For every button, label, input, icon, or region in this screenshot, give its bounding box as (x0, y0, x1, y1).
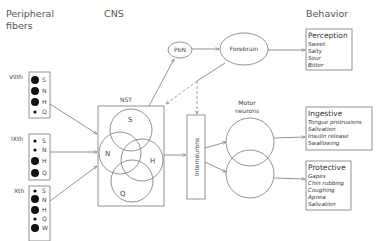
svg-text:S: S (128, 116, 133, 124)
nerve-xth: Xth S N H Q W (14, 186, 50, 241)
behavior-protective: Protective Gapes Chin rubbing Coughing A… (306, 161, 351, 210)
receptor-dot (31, 157, 39, 165)
nerve-viith: VIIth S N H Q (9, 72, 50, 118)
pbn-label: PbN (174, 46, 186, 53)
svg-text:Insulin release: Insulin release (308, 133, 349, 139)
svg-text:Swallowing: Swallowing (308, 140, 340, 147)
svg-text:Q: Q (120, 190, 126, 198)
behavior-ingestive: Ingestive Tongue protrusions Salivation … (306, 107, 372, 150)
svg-text:H: H (42, 157, 47, 164)
nst-circle-h (121, 139, 163, 181)
svg-text:Ingestive: Ingestive (308, 109, 343, 118)
svg-text:Salivation: Salivation (308, 201, 336, 207)
arrow-to-motor-lower (205, 162, 226, 172)
svg-text:Tongue protrusions: Tongue protrusions (308, 119, 362, 126)
receptor-dot (31, 98, 39, 106)
svg-text:H: H (42, 98, 47, 105)
pbn: PbN (168, 42, 192, 58)
interneurons-label: Interneurons (193, 138, 200, 176)
receptor-dot (31, 87, 39, 95)
header-fibers: fibers (6, 20, 33, 31)
svg-text:S: S (42, 137, 46, 144)
svg-text:S: S (42, 187, 46, 194)
svg-text:Sour: Sour (308, 55, 322, 61)
svg-text:N: N (42, 196, 47, 203)
svg-text:Gapes: Gapes (308, 173, 326, 180)
taste-pathway-diagram: Peripheral fibers CNS Behavior VIIth S N… (0, 0, 377, 241)
svg-text:Protective: Protective (308, 163, 346, 172)
nerve-ixth: IXth S N H Q (11, 134, 50, 180)
svg-text:W: W (42, 224, 48, 231)
arrow-xth-to-nst (50, 166, 97, 201)
receptor-dot (31, 76, 39, 84)
svg-text:Coughing: Coughing (308, 187, 335, 194)
interneurons: Interneurons (187, 115, 205, 199)
receptor-dot (33, 148, 36, 151)
svg-text:Q: Q (42, 215, 47, 222)
svg-text:Sweet: Sweet (308, 41, 326, 47)
svg-text:S: S (42, 76, 46, 83)
arrow-to-ingestive (274, 137, 305, 138)
motor-circle-protective (226, 150, 274, 198)
svg-text:N: N (105, 150, 110, 158)
nerve-label: Xth (14, 187, 24, 194)
svg-text:H: H (42, 206, 47, 213)
receptor-dot (33, 217, 36, 220)
svg-text:H: H (150, 157, 155, 165)
forebrain-label: Forebrain (230, 45, 259, 52)
forebrain-descending-line (197, 63, 225, 81)
nst-circle-q (111, 160, 153, 202)
receptor-box (29, 186, 50, 241)
arrow-nst-to-pbn (149, 59, 174, 106)
svg-text:neurons: neurons (235, 107, 259, 114)
motor-neurons: Motor neurons (226, 99, 274, 198)
header-behavior: Behavior (306, 8, 348, 19)
svg-text:Motor: Motor (238, 99, 256, 106)
dashed-arrow-to-nst (166, 81, 197, 104)
behavior-perception: Perception Sweet Salty Sour Bitter (306, 29, 352, 70)
nerve-label: VIIth (9, 73, 23, 80)
svg-text:Salty: Salty (308, 48, 323, 55)
svg-text:Salivation: Salivation (308, 126, 336, 132)
nerve-label: IXth (11, 135, 23, 142)
receptor-dot (31, 195, 39, 203)
arrow-viith-to-nst (50, 104, 97, 134)
receptor-dot (31, 169, 39, 177)
svg-text:Bitter: Bitter (308, 62, 324, 68)
svg-text:Q: Q (42, 169, 47, 176)
header-cns: CNS (104, 8, 124, 19)
forebrain: Forebrain (220, 33, 268, 65)
arrow-to-protective (274, 178, 305, 179)
svg-text:Q: Q (42, 108, 47, 115)
arrow-to-motor-upper (205, 142, 226, 148)
svg-text:Apnea: Apnea (307, 194, 326, 201)
receptor-dot (33, 189, 36, 192)
svg-text:N: N (42, 87, 47, 94)
header-peripheral: Peripheral (6, 8, 54, 19)
svg-text:N: N (42, 146, 47, 153)
svg-text:Chin rubbing: Chin rubbing (308, 180, 344, 187)
nst-label: NST (120, 96, 132, 103)
receptor-dot (33, 139, 36, 142)
receptor-dot (33, 110, 36, 113)
svg-text:Perception: Perception (308, 31, 348, 40)
motor-circle-ingestive (226, 118, 274, 166)
receptor-dot (31, 206, 39, 214)
nst: NST S N H Q (98, 96, 164, 206)
receptor-dot (31, 224, 39, 232)
